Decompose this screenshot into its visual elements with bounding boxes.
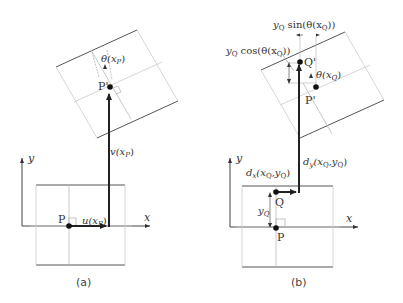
label-yq-cos: yQ cos(θ(xQ)) <box>225 45 290 58</box>
deformation-diagram: y x <box>0 0 403 303</box>
deformed-element-a <box>56 30 178 138</box>
label-p-prime: P' <box>98 80 108 93</box>
point-q-prime <box>297 59 303 65</box>
deformed-element-b <box>261 32 384 138</box>
y-axis-label: y <box>27 152 35 165</box>
x-axis-label: x <box>144 211 151 224</box>
label-v: v(xP) <box>110 146 134 159</box>
label-theta: θ(xQ) <box>316 69 341 82</box>
y-axis-label: y <box>235 152 243 165</box>
label-dx: dx(xQ,yQ) <box>246 167 290 180</box>
caption-b: (b) <box>291 276 307 289</box>
label-theta: θ(xP) <box>101 53 125 66</box>
point-q <box>273 189 279 195</box>
label-q-prime: Q' <box>304 56 316 69</box>
label-p: P <box>58 213 66 226</box>
theta-marker <box>103 64 107 69</box>
point-p <box>66 223 72 229</box>
caption-a: (a) <box>76 276 91 289</box>
panel-a: y x <box>22 30 178 289</box>
point-p-prime <box>313 84 319 90</box>
label-dy: dy(xQ,yQ) <box>303 156 347 169</box>
label-q: Q <box>275 196 284 209</box>
x-axis-label: x <box>346 212 353 225</box>
label-yq-sin: yQ sin(θ(xQ)) <box>272 19 335 32</box>
label-p: P <box>277 231 285 244</box>
point-p <box>273 225 279 231</box>
label-yq: yQ <box>257 205 270 218</box>
label-p-prime: P' <box>305 94 315 107</box>
panel-b: y x <box>225 19 384 289</box>
